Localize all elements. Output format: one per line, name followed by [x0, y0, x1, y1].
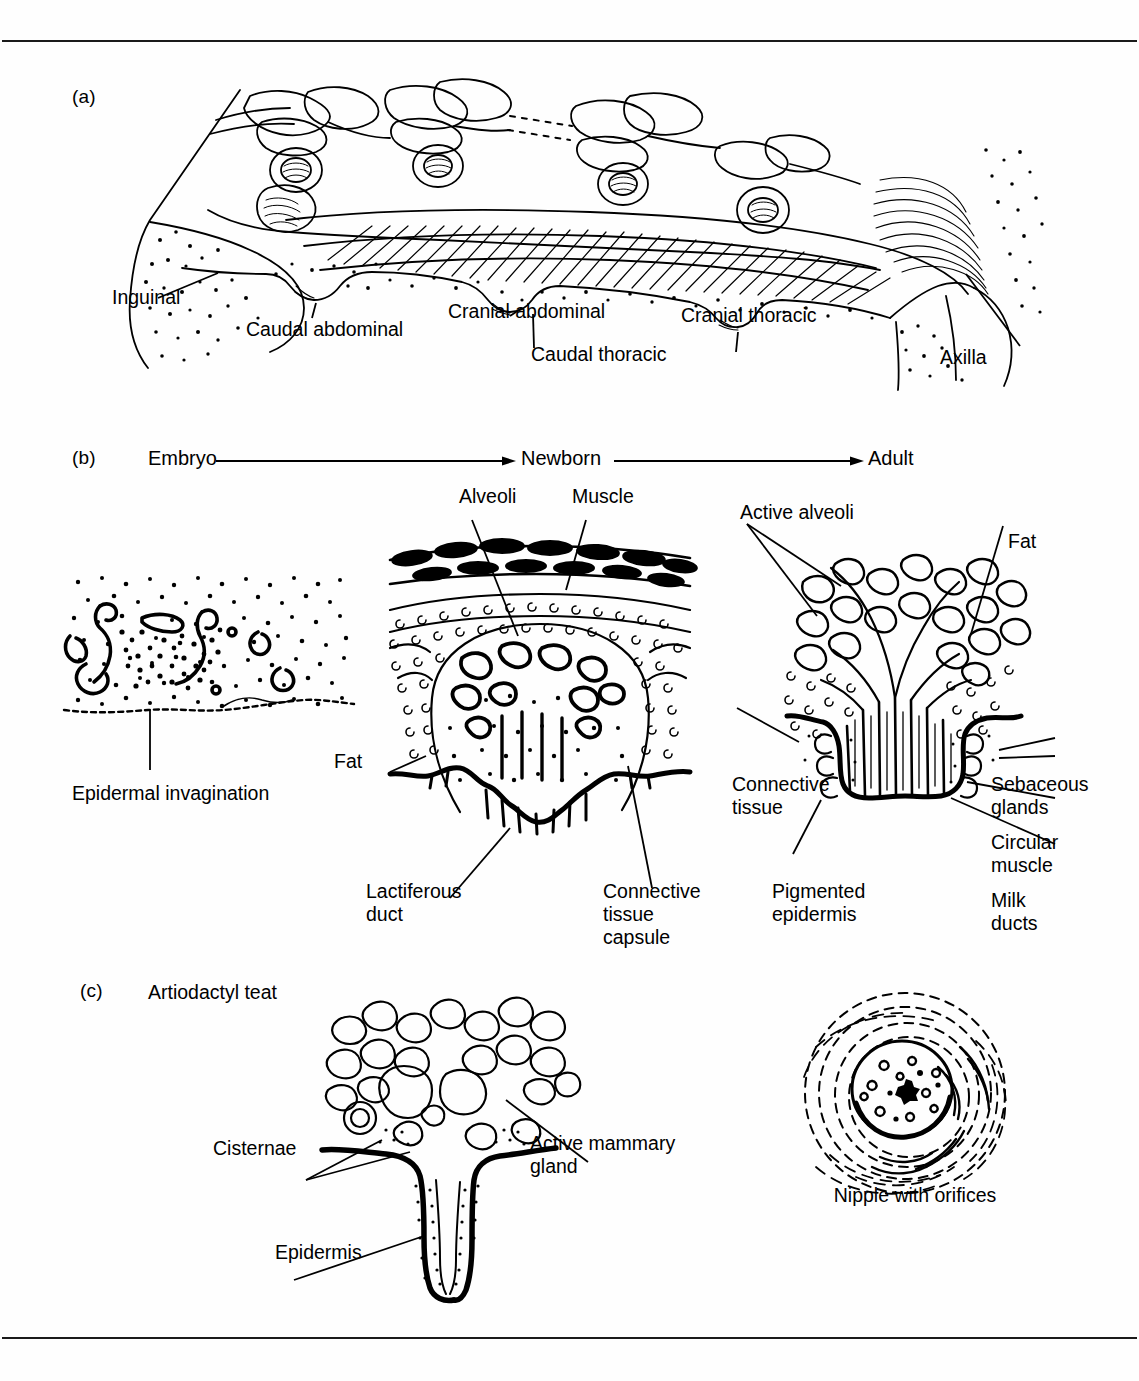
panel-c-letter: (c): [80, 980, 103, 1002]
label-cisternae: Cisternae: [213, 1137, 296, 1160]
top-rule: [2, 40, 1137, 42]
label-alveoli: Alveoli: [459, 485, 516, 508]
label-connective-tissue-capsule: Connective tissue capsule: [603, 880, 701, 949]
nipple-with-orifices-illustration: [760, 985, 1050, 1200]
panel-a-illustration: [90, 60, 1070, 390]
label-active-alveoli: Active alveoli: [740, 501, 854, 524]
label-lactiferous-duct: Lactiferous duct: [366, 880, 461, 926]
label-muscle: Muscle: [572, 485, 634, 508]
label-fat-adult: Fat: [1008, 530, 1036, 553]
figure-page: (a): [0, 0, 1139, 1381]
stage-newborn: Newborn: [521, 447, 601, 470]
label-sebaceous-glands: Sebaceous glands: [991, 773, 1089, 819]
stage-adult: Adult: [868, 447, 914, 470]
label-epidermal-invagination: Epidermal invagination: [72, 782, 269, 805]
label-active-mammary-gland: Active mammary gland: [530, 1132, 675, 1178]
arrow-embryo-newborn: [216, 455, 516, 467]
label-inguinal: Inguinal: [112, 286, 180, 309]
label-pigmented-epidermis: Pigmented epidermis: [772, 880, 865, 926]
label-epidermis: Epidermis: [275, 1241, 362, 1264]
bottom-rule: [2, 1337, 1137, 1339]
label-axilla: Axilla: [940, 346, 987, 369]
panel-b-letter: (b): [72, 447, 96, 469]
embryo-section-illustration: [64, 570, 354, 770]
label-circular-muscle: Circular muscle: [991, 831, 1058, 877]
stage-embryo: Embryo: [148, 447, 217, 470]
arrow-newborn-adult: [614, 455, 864, 467]
label-fat-newborn: Fat: [334, 750, 362, 773]
label-caudal-thoracic: Caudal thoracic: [531, 343, 667, 366]
panel-c-title: Artiodactyl teat: [148, 981, 277, 1004]
newborn-section-illustration: [390, 528, 690, 858]
caption-nipple-with-orifices: Nipple with orifices: [790, 1184, 1040, 1207]
label-milk-ducts: Milk ducts: [991, 889, 1038, 935]
label-cranial-thoracic: Cranial thoracic: [681, 304, 816, 327]
label-cranial-abdominal: Cranial abdominal: [448, 300, 605, 323]
label-caudal-abdominal: Caudal abdominal: [246, 318, 403, 341]
label-connective-tissue: Connective tissue: [732, 773, 830, 819]
